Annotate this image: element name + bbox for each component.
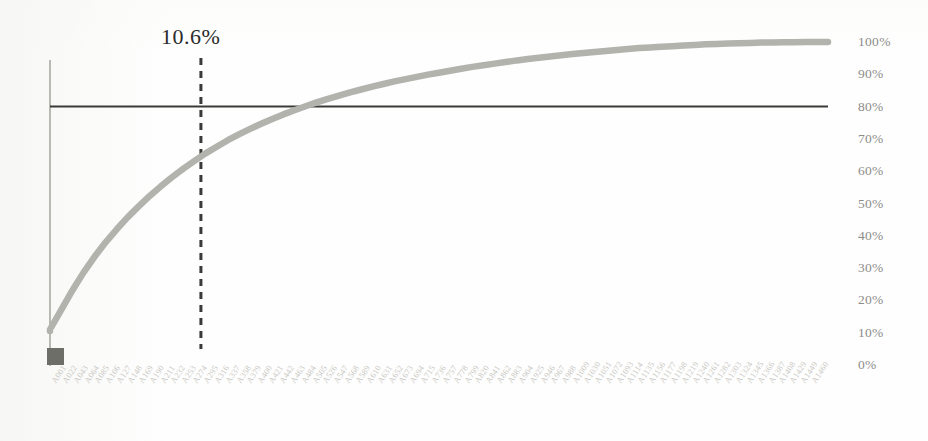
x-axis-tick-labels: A001A022A043A064A085A106A127A148A169A190… (0, 0, 928, 441)
chart-page: 10.6% 100%90%80%70%60%50%40%30%20%10%0% … (0, 0, 928, 441)
